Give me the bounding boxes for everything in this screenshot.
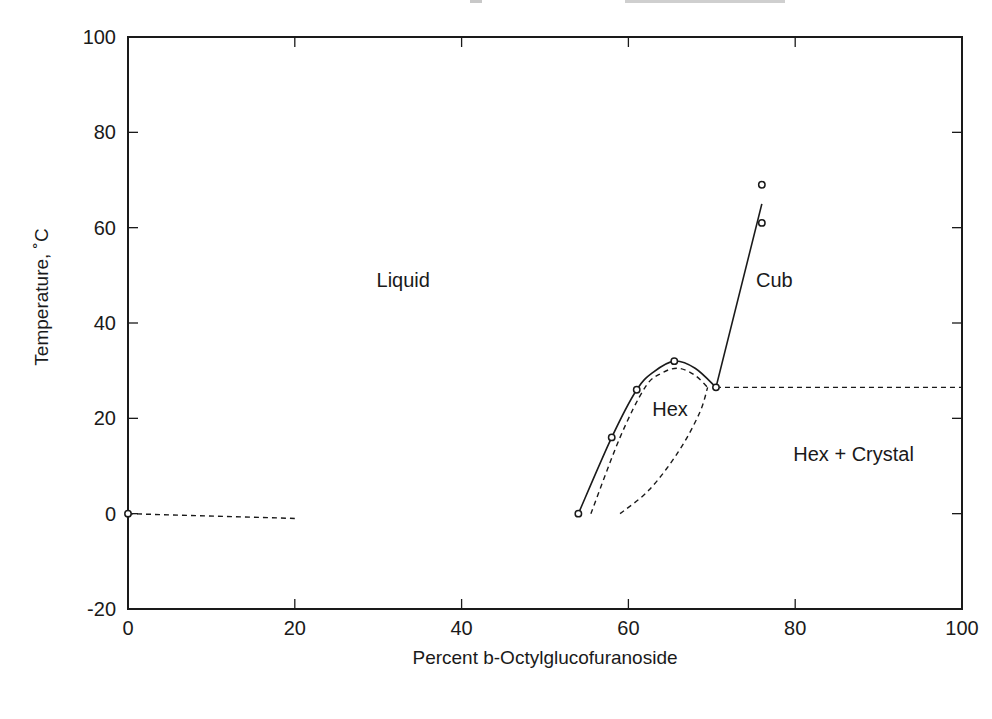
x-tick-label: 0 bbox=[122, 617, 133, 639]
x-tick-label: 100 bbox=[945, 617, 978, 639]
y-tick-label: 100 bbox=[83, 26, 116, 48]
data-point-circle-icon bbox=[125, 510, 131, 516]
cropped-title-fragment bbox=[470, 0, 785, 3]
phase-boundary-solid bbox=[578, 361, 716, 514]
phase-boundary-dashed bbox=[128, 514, 295, 519]
data-point-circle-icon bbox=[759, 182, 765, 188]
x-axis-title: Percent b-Octylglucofuranoside bbox=[412, 647, 677, 668]
axis-ticks bbox=[128, 37, 962, 609]
phase-boundary-lines bbox=[128, 204, 962, 519]
y-tick-label: 60 bbox=[94, 217, 116, 239]
data-point-circle-icon bbox=[671, 358, 677, 364]
plot-border bbox=[128, 37, 962, 609]
y-tick-label: -20 bbox=[87, 598, 116, 620]
x-tick-label: 60 bbox=[617, 617, 639, 639]
plot-frame bbox=[128, 37, 962, 609]
phase-region-labels: LiquidCubHexHex + Crystal bbox=[377, 269, 914, 465]
y-axis-title: Temperature, ˚C bbox=[31, 228, 52, 365]
region-label-liquid: Liquid bbox=[377, 269, 430, 291]
y-tick-label: 20 bbox=[94, 407, 116, 429]
y-tick-label: 80 bbox=[94, 121, 116, 143]
data-point-circle-icon bbox=[575, 510, 581, 516]
data-point-circle-icon bbox=[634, 387, 640, 393]
data-point-circle-icon bbox=[713, 384, 719, 390]
data-point-markers bbox=[125, 182, 765, 517]
y-tick-label: 0 bbox=[105, 503, 116, 525]
y-axis-tick-labels: -20020406080100 bbox=[83, 26, 116, 620]
x-tick-label: 80 bbox=[784, 617, 806, 639]
phase-boundary-dashed bbox=[591, 368, 708, 513]
data-point-circle-icon bbox=[759, 220, 765, 226]
region-label-hex: Hex bbox=[652, 398, 688, 420]
x-tick-label: 20 bbox=[284, 617, 306, 639]
data-point-circle-icon bbox=[609, 434, 615, 440]
phase-boundary-solid bbox=[716, 204, 762, 388]
x-axis-tick-labels: 020406080100 bbox=[122, 617, 978, 639]
region-label-hex-crystal: Hex + Crystal bbox=[793, 443, 914, 465]
y-tick-label: 40 bbox=[94, 312, 116, 334]
region-label-cub: Cub bbox=[756, 269, 793, 291]
x-tick-label: 40 bbox=[450, 617, 472, 639]
phase-diagram-chart: 020406080100 -20020406080100 LiquidCubHe… bbox=[0, 0, 992, 719]
